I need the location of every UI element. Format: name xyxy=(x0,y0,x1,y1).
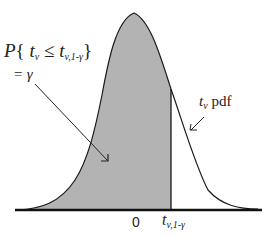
p-symbol: P xyxy=(4,40,16,61)
zero-label: 0 xyxy=(132,214,140,230)
pdf-arrow xyxy=(191,117,204,130)
critical-value-label: tv,1-γ xyxy=(162,211,185,230)
t-subscript: v xyxy=(35,51,39,62)
close-brace: } xyxy=(83,40,92,61)
equals-gamma-label: = γ xyxy=(13,66,33,83)
pdf-t-subscript: v xyxy=(203,100,207,111)
pdf-label: tv pdf xyxy=(199,93,231,111)
t-distribution-diagram xyxy=(0,0,267,236)
open-brace: { xyxy=(16,40,25,61)
leq-symbol: ≤ xyxy=(44,40,54,61)
probability-label: P{ tv ≤ tv,1-γ} xyxy=(4,40,92,62)
pdf-text: pdf xyxy=(211,93,231,109)
t2-subscript: v,1-γ xyxy=(64,51,82,62)
critical-subscript: v,1-γ xyxy=(166,219,184,230)
